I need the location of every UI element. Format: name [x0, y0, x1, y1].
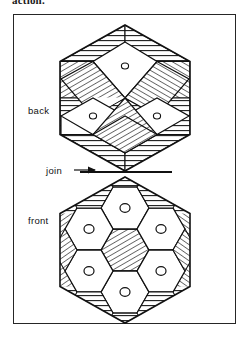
- label-join: join: [45, 165, 62, 176]
- front-hole-bottom: [120, 288, 130, 297]
- figure-canvas: back join front: [0, 0, 252, 339]
- label-front: front: [28, 215, 49, 226]
- front-hexagon-group: [53, 166, 197, 334]
- back-hexagon-group: [60, 25, 190, 171]
- front-hole-top: [120, 204, 130, 213]
- back-hole-left: [89, 113, 96, 119]
- front-hole-lower-right: [156, 267, 166, 276]
- front-hole-lower-left: [84, 267, 94, 276]
- label-back: back: [28, 105, 49, 116]
- front-hole-upper-left: [84, 225, 94, 234]
- back-hole-right: [153, 113, 160, 119]
- back-hole-top: [121, 63, 128, 69]
- front-hole-upper-right: [156, 225, 166, 234]
